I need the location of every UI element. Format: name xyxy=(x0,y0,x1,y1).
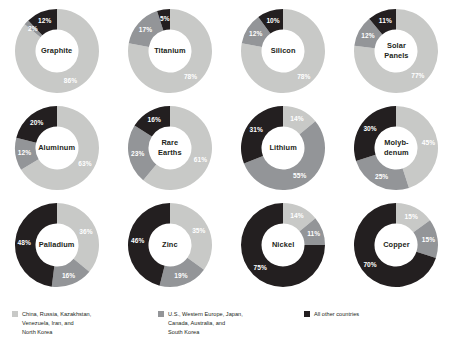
chart-legend: China, Russia, Kazakhstan, Venezuela, Ir… xyxy=(12,310,442,337)
donut-slices xyxy=(13,7,101,95)
donut-ring: 78%17%5%Titanium xyxy=(126,7,214,95)
donut-chart-palladium: 36%16%48%Palladium xyxy=(0,196,113,293)
legend-swatch-icon xyxy=(12,311,18,317)
donut-chart-solarpanels: 77%12%11%Solar Panels xyxy=(340,2,453,99)
donut-slice-other xyxy=(241,106,283,163)
donut-chart-grid: 86%2%12%Graphite78%17%5%Titanium78%12%10… xyxy=(0,2,453,293)
donut-slice-other xyxy=(354,106,396,161)
donut-chart-molyb-denum: 45%25%30%Molyb- denum xyxy=(340,99,453,196)
donut-chart-lithium: 14%55%31%Lithium xyxy=(227,99,340,196)
donut-slice-western-bloc xyxy=(356,154,409,189)
donut-slices xyxy=(13,104,101,192)
donut-ring: 63%12%20%Aluminum xyxy=(13,104,101,192)
legend-item: China, Russia, Kazakhstan, Venezuela, Ir… xyxy=(12,310,140,337)
donut-chart-figure: 86%2%12%Graphite78%17%5%Titanium78%12%10… xyxy=(0,0,453,347)
donut-ring: 45%25%30%Molyb- denum xyxy=(352,104,440,192)
donut-ring: 77%12%11%Solar Panels xyxy=(352,7,440,95)
donut-slices xyxy=(126,201,214,289)
donut-slices xyxy=(126,104,214,192)
legend-item: All other countries xyxy=(304,310,424,319)
donut-chart-nickel: 14%11%75%Nickel xyxy=(227,196,340,293)
donut-slices xyxy=(239,104,327,192)
donut-chart-zinc: 35%19%46%Zinc xyxy=(113,196,226,293)
donut-ring: 78%12%10%Silicon xyxy=(239,7,327,95)
donut-chart-copper: 15%15%70%Copper xyxy=(340,196,453,293)
legend-label: All other countries xyxy=(314,310,359,319)
donut-slice-china-bloc xyxy=(57,203,99,272)
donut-ring: 14%55%31%Lithium xyxy=(239,104,327,192)
legend-swatch-icon xyxy=(158,311,164,317)
donut-ring: 36%16%48%Palladium xyxy=(13,201,101,289)
donut-slices xyxy=(352,104,440,192)
donut-ring: 35%19%46%Zinc xyxy=(126,201,214,289)
donut-slice-other xyxy=(15,203,57,287)
legend-label: China, Russia, Kazakhstan, Venezuela, Ir… xyxy=(22,310,91,337)
donut-slice-other xyxy=(16,106,57,143)
donut-ring: 86%2%12%Graphite xyxy=(13,7,101,95)
donut-slices xyxy=(352,201,440,289)
donut-chart-rareearths: 61%23%16%Rare Earths xyxy=(113,99,226,196)
donut-ring: 61%23%16%Rare Earths xyxy=(126,104,214,192)
donut-ring: 14%11%75%Nickel xyxy=(239,201,327,289)
donut-chart-graphite: 86%2%12%Graphite xyxy=(0,2,113,99)
donut-ring: 15%15%70%Copper xyxy=(352,201,440,289)
donut-slices xyxy=(239,201,327,289)
donut-chart-aluminum: 63%12%20%Aluminum xyxy=(0,99,113,196)
legend-label: U.S., Western Europe, Japan, Canada, Aus… xyxy=(168,310,243,337)
donut-slices xyxy=(352,7,440,95)
legend-item: U.S., Western Europe, Japan, Canada, Aus… xyxy=(158,310,286,337)
donut-slice-western-bloc xyxy=(129,11,164,47)
legend-swatch-icon xyxy=(304,311,310,317)
donut-chart-titanium: 78%17%5%Titanium xyxy=(113,2,226,99)
donut-slices xyxy=(13,201,101,289)
donut-slices xyxy=(126,7,214,95)
donut-slices xyxy=(239,7,327,95)
donut-slice-china-bloc xyxy=(170,203,212,270)
donut-chart-silicon: 78%12%10%Silicon xyxy=(227,2,340,99)
